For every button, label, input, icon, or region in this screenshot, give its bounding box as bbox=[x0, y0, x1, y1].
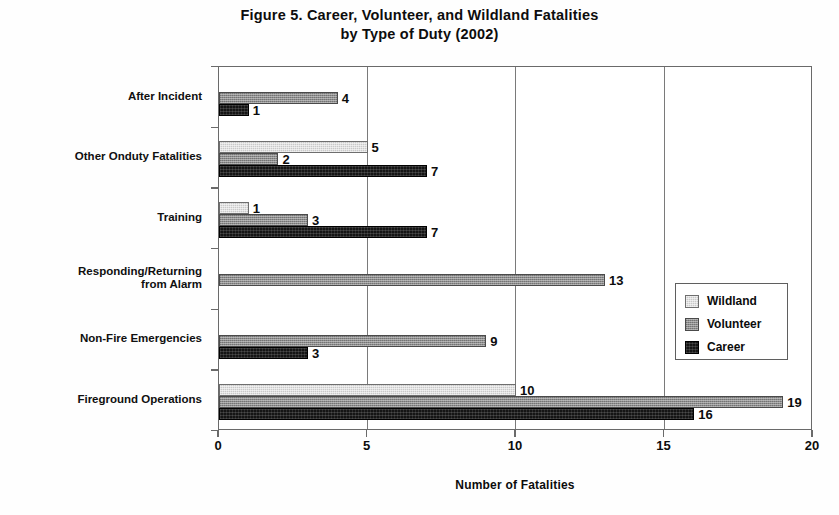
y-axis-tick bbox=[211, 187, 218, 188]
bar-wildland-2 bbox=[219, 141, 368, 153]
bar-value-label: 16 bbox=[698, 409, 712, 421]
y-axis-tick bbox=[211, 66, 218, 67]
legend-item-wildland[interactable]: Wildland bbox=[685, 290, 787, 313]
chart-legend: WildlandVolunteerCareer bbox=[675, 283, 788, 360]
bar-value-label: 13 bbox=[609, 275, 623, 287]
x-axis-tick-label-20: 20 bbox=[792, 438, 832, 453]
x-axis-tick-label-5: 5 bbox=[347, 438, 387, 453]
x-axis-tick-5 bbox=[366, 430, 367, 437]
bar-value-label: 4 bbox=[342, 93, 349, 105]
y-axis-tick bbox=[211, 309, 218, 310]
bar-career-3 bbox=[219, 226, 427, 238]
bar-career-6 bbox=[219, 408, 694, 420]
bar-wildland-6 bbox=[219, 384, 516, 396]
legend-item-career[interactable]: Career bbox=[685, 336, 787, 359]
y-axis-label-6: Fireground Operations bbox=[0, 393, 202, 407]
chart-title: Figure 5. Career, Volunteer, and Wildlan… bbox=[0, 6, 839, 44]
plot-area: 415271371393101916 bbox=[218, 66, 812, 430]
y-axis-label-3: Training bbox=[0, 211, 202, 225]
bar-career-5 bbox=[219, 347, 308, 359]
x-axis-tick-label-10: 10 bbox=[495, 438, 535, 453]
bar-wildland-3 bbox=[219, 202, 249, 214]
bar-value-label: 7 bbox=[431, 227, 438, 239]
bar-value-label: 7 bbox=[431, 166, 438, 178]
y-axis-tick bbox=[211, 127, 218, 128]
bar-value-label: 5 bbox=[372, 142, 379, 154]
legend-swatch-volunteer-icon bbox=[685, 318, 699, 331]
bar-volunteer-4 bbox=[219, 274, 605, 286]
bar-volunteer-5 bbox=[219, 335, 486, 347]
legend-swatch-career-icon bbox=[685, 341, 699, 354]
bar-value-label: 1 bbox=[253, 105, 260, 117]
y-axis-label-1: After Incident bbox=[0, 90, 202, 104]
y-axis-tick bbox=[211, 369, 218, 370]
x-axis-tick-label-15: 15 bbox=[644, 438, 684, 453]
gridline-15 bbox=[664, 67, 665, 429]
bar-value-label: 19 bbox=[787, 397, 801, 409]
bar-value-label: 3 bbox=[312, 348, 319, 360]
bar-volunteer-1 bbox=[219, 92, 338, 104]
bar-volunteer-2 bbox=[219, 153, 278, 165]
bar-career-1 bbox=[219, 104, 249, 116]
x-axis-tick-label-0: 0 bbox=[198, 438, 238, 453]
bar-value-label: 9 bbox=[490, 336, 497, 348]
y-axis-tick bbox=[211, 248, 218, 249]
chart-figure: Figure 5. Career, Volunteer, and Wildlan… bbox=[0, 0, 839, 515]
legend-label: Wildland bbox=[707, 295, 757, 308]
y-axis-label-4: Responding/Returning from Alarm bbox=[0, 265, 202, 292]
legend-item-volunteer[interactable]: Volunteer bbox=[685, 313, 787, 336]
y-axis-category-labels: After IncidentOther Onduty FatalitiesTra… bbox=[0, 66, 212, 430]
y-axis-label-5: Non-Fire Emergencies bbox=[0, 332, 202, 346]
x-axis-tick-15 bbox=[663, 430, 664, 437]
gridline-10 bbox=[515, 67, 516, 429]
x-axis-title: Number of Fatalities bbox=[218, 478, 812, 492]
x-axis-tick-20 bbox=[811, 430, 812, 437]
gridline-5 bbox=[367, 67, 368, 429]
y-axis-label-2: Other Onduty Fatalities bbox=[0, 150, 202, 164]
chart-title-line-2: by Type of Duty (2002) bbox=[0, 25, 839, 44]
y-axis-tick bbox=[211, 430, 218, 431]
legend-label: Volunteer bbox=[707, 318, 761, 331]
bar-career-2 bbox=[219, 165, 427, 177]
legend-swatch-wildland-icon bbox=[685, 295, 699, 308]
bar-volunteer-3 bbox=[219, 214, 308, 226]
legend-label: Career bbox=[707, 341, 745, 354]
x-axis-tick-10 bbox=[514, 430, 515, 437]
bar-volunteer-6 bbox=[219, 396, 783, 408]
chart-title-line-1: Figure 5. Career, Volunteer, and Wildlan… bbox=[0, 6, 839, 25]
